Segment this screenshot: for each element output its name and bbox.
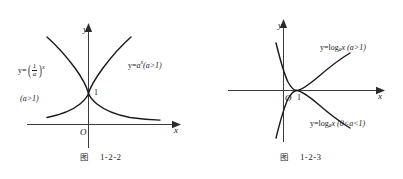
- caption-number: 1-2-3: [300, 152, 322, 162]
- caption-number: 1-2-2: [100, 152, 122, 162]
- log-increasing-label: y=logax (a>1): [320, 44, 366, 53]
- x-axis: [228, 87, 385, 94]
- curve-exponential-decay: [47, 37, 160, 120]
- log-dec-condition: (0<a<1): [337, 119, 365, 128]
- y-axis-label: y: [83, 24, 87, 34]
- origin-label: O: [80, 127, 87, 137]
- figure-right-caption: 图1-2-3: [200, 150, 401, 162]
- log-inc-lhs: y=log: [320, 43, 339, 52]
- point-label-one: 1: [297, 93, 301, 102]
- log-inc-condition: (a>1): [347, 43, 366, 52]
- caption-word: 图: [80, 152, 89, 162]
- caption-word: 图: [280, 152, 289, 162]
- figure-left-caption: 图1-2-2: [0, 150, 201, 162]
- curve-log-decreasing: [276, 43, 350, 128]
- log-dec-lhs: y=log: [310, 119, 329, 128]
- fraction-denominator: a: [32, 70, 38, 78]
- decay-curve-label: y=(1a)x: [18, 63, 45, 79]
- figure-exponential: x y O 1 y=ax(a>1) y=(1a)x (a>1) 图1-2-2: [0, 0, 201, 179]
- figure-logarithmic: x y O 1 y=logax (a>1) y=logax (0<a<1) 图1…: [200, 0, 401, 179]
- growth-lhs: y=: [128, 61, 137, 70]
- growth-curve-label: y=ax(a>1): [128, 60, 162, 70]
- fraction-one-over-a: 1a: [32, 63, 38, 79]
- log-dec-arg: x: [332, 119, 336, 128]
- fraction-numerator: 1: [32, 63, 38, 70]
- y-axis: [280, 19, 287, 142]
- x-axis-label: x: [378, 91, 382, 101]
- log-decreasing-label: y=logax (0<a<1): [310, 120, 365, 129]
- x-axis-label: x: [174, 125, 178, 135]
- figure-sheet: x y O 1 y=ax(a>1) y=(1a)x (a>1) 图1-2-2: [0, 0, 403, 179]
- point-label-one: 1: [94, 88, 98, 97]
- decay-lhs: y=: [18, 66, 27, 75]
- y-axis-label: y: [278, 20, 282, 30]
- log-inc-arg: x: [342, 43, 346, 52]
- growth-condition: (a>1): [143, 61, 162, 70]
- left-paren: (: [27, 66, 30, 76]
- x-axis: [27, 121, 181, 128]
- decay-curve-condition: (a>1): [20, 95, 39, 103]
- right-paren: ): [39, 66, 42, 76]
- origin-label: O: [285, 93, 292, 103]
- decay-exponent: x: [42, 64, 44, 70]
